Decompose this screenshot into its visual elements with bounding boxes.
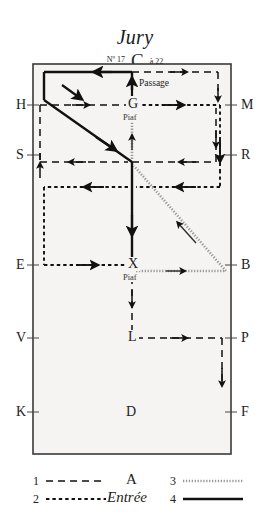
arena-letter-X: X xyxy=(126,257,140,271)
arena-letter-M: M xyxy=(241,98,253,112)
arena-letter-K: K xyxy=(16,405,26,419)
arena-letter-B: B xyxy=(241,258,250,272)
legend-number-2: 2 xyxy=(33,492,39,507)
arena-letter-E: E xyxy=(16,258,25,272)
arena-letter-H: H xyxy=(16,98,26,112)
arena-letter-D: D xyxy=(126,405,136,419)
legend-letter-A: A xyxy=(126,471,137,488)
legend-entree-label: Entrée xyxy=(107,489,147,506)
arena-letter-F: F xyxy=(241,405,249,419)
arena-letter-G: G xyxy=(126,97,140,111)
legend-number-4: 4 xyxy=(170,492,176,507)
legend-number-1: 1 xyxy=(33,474,39,489)
arena-letter-L: L xyxy=(126,330,139,344)
arena-letter-P: P xyxy=(241,331,249,345)
arena-letter-R: R xyxy=(241,148,250,162)
legend-number-3: 3 xyxy=(170,474,176,489)
arena-letter-S: S xyxy=(16,148,24,162)
dressage-test-diagram: Jury Nº17Cà 22 xyxy=(0,0,270,523)
annotation-piaf-x: Piaf xyxy=(122,273,138,282)
annotation-piaf-g: Piaf xyxy=(122,113,138,122)
arena-letter-V: V xyxy=(16,331,26,345)
annotation-passage: Passage xyxy=(138,79,170,89)
